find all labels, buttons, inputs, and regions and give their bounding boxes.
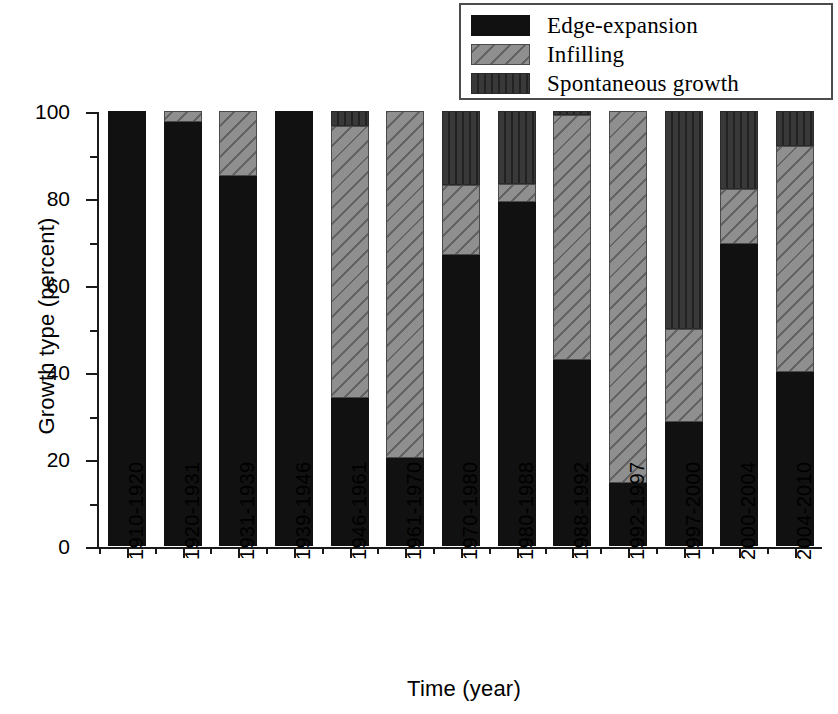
- x-tick-minor: [656, 548, 658, 554]
- bar-segment-infilling: [331, 126, 369, 398]
- bar-segment-infilling: [164, 111, 202, 122]
- y-tick-major: [86, 460, 97, 462]
- x-tick-minor: [545, 548, 547, 554]
- bar-segment-infilling: [498, 184, 536, 203]
- x-tick-minor: [712, 548, 714, 554]
- y-tick-major: [86, 547, 97, 549]
- y-tick-label: 20: [47, 448, 70, 472]
- chart-legend: Edge-expansionInfillingSpontaneous growt…: [459, 3, 833, 100]
- x-tick-minor: [489, 548, 491, 554]
- bar-segment-spontaneous-growth: [553, 111, 591, 115]
- bar-segment-spontaneous-growth: [720, 111, 758, 189]
- legend-item-infilling[interactable]: Infilling: [471, 40, 831, 69]
- bar-segment-infilling: [609, 111, 647, 483]
- bar-segment-infilling: [386, 111, 424, 458]
- bar-segment-spontaneous-growth: [442, 111, 480, 185]
- legend-label: Edge-expansion: [547, 13, 698, 39]
- x-tick-minor: [99, 548, 101, 554]
- x-tick-minor: [433, 548, 435, 554]
- y-tick-major: [86, 199, 97, 201]
- y-tick-label: 40: [47, 361, 70, 385]
- y-tick-minor: [90, 504, 97, 506]
- x-tick-label: 1910-1920: [125, 462, 148, 560]
- y-tick-major: [86, 286, 97, 288]
- bar-segment-infilling: [665, 329, 703, 423]
- bar-segment-infilling: [219, 111, 257, 176]
- y-tick-minor: [90, 330, 97, 332]
- bar-segment-infilling: [720, 189, 758, 243]
- legend-swatch-infilling: [471, 44, 530, 65]
- y-axis-line: [97, 112, 99, 549]
- bar-segment-infilling: [776, 146, 814, 372]
- legend-label: Infilling: [547, 42, 624, 68]
- x-tick-minor: [377, 548, 379, 554]
- y-tick-minor: [90, 243, 97, 245]
- bar-segment-infilling: [553, 115, 591, 360]
- stacked-bar-chart-figure: Growth type (percent) Time (year) 020406…: [0, 0, 838, 714]
- x-tick-label: 1970-1980: [459, 462, 482, 560]
- x-tick-minor: [322, 548, 324, 554]
- x-tick-label: 1992-1997: [626, 462, 649, 560]
- y-tick-minor: [90, 417, 97, 419]
- x-tick-label: 1988-1992: [570, 462, 593, 560]
- legend-item-edge-expansion[interactable]: Edge-expansion: [471, 11, 831, 40]
- x-axis-title: Time (year): [90, 676, 838, 702]
- y-tick-major: [86, 373, 97, 375]
- bar-segment-spontaneous-growth: [665, 111, 703, 329]
- y-tick-label: 0: [58, 535, 70, 559]
- y-tick-label: 60: [47, 274, 70, 298]
- x-tick-label: 2004-2010: [793, 462, 816, 560]
- y-tick-label: 100: [35, 100, 70, 124]
- bar-segment-spontaneous-growth: [498, 111, 536, 184]
- x-tick-minor: [155, 548, 157, 554]
- legend-label: Spontaneous growth: [547, 71, 739, 97]
- y-tick-major: [86, 112, 97, 114]
- legend-swatch-spontaneous-growth: [471, 73, 530, 94]
- bar-segment-spontaneous-growth: [776, 111, 814, 146]
- legend-swatch-edge-expansion: [471, 15, 530, 36]
- x-tick-label: 1931-1939: [236, 462, 259, 560]
- x-tick-label: 1980-1988: [515, 462, 538, 560]
- x-tick-minor: [767, 548, 769, 554]
- bar-segment-spontaneous-growth: [331, 111, 369, 126]
- x-tick-minor: [266, 548, 268, 554]
- x-tick-minor: [210, 548, 212, 554]
- x-tick-label: 1946-1961: [348, 462, 371, 560]
- legend-item-spontaneous-growth[interactable]: Spontaneous growth: [471, 69, 831, 98]
- y-tick-minor: [90, 156, 97, 158]
- bar-segment-infilling: [442, 185, 480, 255]
- x-tick-label: 1939-1946: [292, 462, 315, 560]
- x-tick-label: 1920-1931: [181, 462, 204, 560]
- x-tick-label: 2000-2004: [737, 462, 760, 560]
- x-tick-label: 1961-1970: [403, 462, 426, 560]
- x-tick-minor: [600, 548, 602, 554]
- y-tick-label: 80: [47, 187, 70, 211]
- x-tick-label: 1997-2000: [682, 462, 705, 560]
